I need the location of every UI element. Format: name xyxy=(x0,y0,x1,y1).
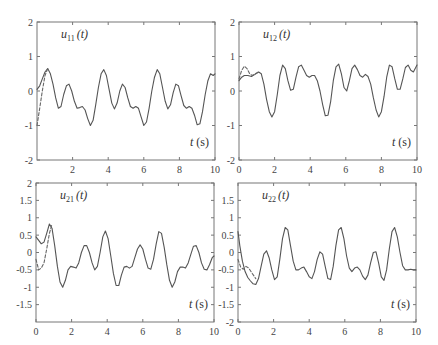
x-tick-label: 2 xyxy=(272,164,277,175)
y-tick-label: 2 xyxy=(28,17,33,28)
y-tick-label: -1 xyxy=(227,120,235,131)
y-tick-label: -2 xyxy=(226,317,234,328)
y-tick-label: 1 xyxy=(28,51,33,62)
x-tick-label: 8 xyxy=(176,326,181,337)
series-label: u21(t) xyxy=(60,188,87,204)
x-tick-label: 10 xyxy=(412,164,422,175)
y-tick-label: 0 xyxy=(27,247,32,258)
x-tick-label: 2 xyxy=(271,326,276,337)
y-tick-label: 1.5 xyxy=(20,195,33,206)
actual-line xyxy=(238,228,416,285)
x-axis-label: t (s) xyxy=(392,135,411,149)
x-tick-label: 8 xyxy=(378,326,383,337)
y-tick-label: 0 xyxy=(230,86,235,97)
reference-line xyxy=(37,69,48,126)
actual-line xyxy=(239,64,417,117)
series-label: u12(t) xyxy=(263,27,290,43)
y-tick-label: -1 xyxy=(25,120,33,131)
x-tick-label: 4 xyxy=(308,164,313,175)
x-tick-label: 10 xyxy=(411,326,421,337)
x-axis-label: t (s) xyxy=(190,135,209,149)
x-tick-label: 6 xyxy=(343,164,348,175)
y-tick-label: 2 xyxy=(27,178,32,189)
x-tick-label: 10 xyxy=(209,326,219,337)
plot-u12: 0246810-2-1012u12(t)t (s) xyxy=(227,17,422,176)
actual-line xyxy=(37,69,215,126)
axes-box xyxy=(239,22,417,160)
y-tick-label: -1 xyxy=(226,282,234,293)
y-tick-label: -0.5 xyxy=(16,264,32,275)
y-tick-label: -2 xyxy=(25,155,33,166)
series-label: u22(t) xyxy=(262,188,289,204)
y-tick-label: 1 xyxy=(27,212,32,223)
y-tick-label: -1.5 xyxy=(16,299,32,310)
y-tick-label: 2 xyxy=(230,17,235,28)
x-tick-label: 0 xyxy=(236,326,241,337)
x-tick-label: 0 xyxy=(237,164,242,175)
y-tick-label: 1.5 xyxy=(222,195,235,206)
x-axis-label: t (s) xyxy=(391,297,410,311)
x-tick-label: 6 xyxy=(140,326,145,337)
x-tick-label: 6 xyxy=(141,164,146,175)
x-tick-label: 2 xyxy=(69,326,74,337)
x-tick-label: 10 xyxy=(210,164,220,175)
x-tick-label: 2 xyxy=(70,164,75,175)
x-tick-label: 0 xyxy=(34,326,39,337)
reference-line xyxy=(36,224,52,270)
y-tick-label: 0 xyxy=(229,247,234,258)
y-tick-label: 0.5 xyxy=(20,230,33,241)
x-tick-label: 8 xyxy=(177,164,182,175)
y-tick-label: -1.5 xyxy=(218,299,234,310)
chart-root: 246810-2-1012u11(t)t (s) 0246810-2-1012u… xyxy=(0,0,438,345)
y-tick-label: 1 xyxy=(230,51,235,62)
x-tick-label: 4 xyxy=(106,164,111,175)
x-tick-label: 4 xyxy=(105,326,110,337)
y-tick-label: 1 xyxy=(229,212,234,223)
x-tick-label: 8 xyxy=(379,164,384,175)
x-axis-label: t (s) xyxy=(189,297,208,311)
actual-line xyxy=(36,224,214,287)
y-tick-label: 0.5 xyxy=(222,230,235,241)
x-tick-label: 4 xyxy=(307,326,312,337)
plot-u22: 0246810-2-1.5-1-0.500.511.5u22(t)t (s) xyxy=(218,183,421,337)
x-tick-label: 6 xyxy=(342,326,347,337)
plot-u21: 0246810-1.5-1-0.500.511.52u21(t)t (s) xyxy=(16,178,219,338)
y-tick-label: -2 xyxy=(227,155,235,166)
axes-box xyxy=(36,183,214,322)
y-tick-label: 0 xyxy=(28,86,33,97)
y-tick-label: -1 xyxy=(24,282,32,293)
y-tick-label: -0.5 xyxy=(218,264,234,275)
plot-u11: 246810-2-1012u11(t)t (s) xyxy=(25,17,220,176)
series-label: u11(t) xyxy=(61,27,88,43)
